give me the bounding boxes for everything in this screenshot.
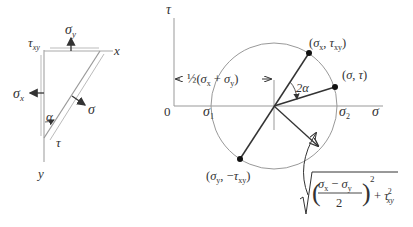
alpha-label: α — [46, 109, 54, 124]
sigma-y-label: σy — [65, 22, 76, 39]
tau-axis-label: τ — [166, 2, 172, 17]
exponent: 2 — [370, 174, 375, 184]
sigma-1-label: σ1 — [203, 104, 214, 121]
point-sigma-y-neg-tau-xy — [237, 156, 243, 162]
center-formula-label: ½(σx + σy) — [187, 72, 238, 88]
stress-element — [30, 38, 113, 162]
point-sigma-tau-label: (σ, τ) — [342, 68, 367, 82]
inclined-plane — [44, 51, 100, 138]
point-sigma-x-tau-xy — [306, 50, 312, 56]
tau-xy-squared: + τ2xy — [374, 187, 394, 205]
x-axis-label: x — [113, 43, 120, 58]
denominator: 2 — [336, 196, 342, 210]
y-axis-label: y — [36, 166, 44, 181]
sigma-normal-arrow — [72, 96, 85, 105]
tau-label: τ — [56, 135, 62, 150]
point-sigma-tau — [332, 84, 338, 90]
sigma-label: σ — [88, 102, 96, 117]
sigma-axis-label: σ — [372, 104, 380, 119]
tau-shear-line — [50, 54, 104, 140]
radius-arrow — [274, 106, 318, 146]
sigma-2-label: σ2 — [339, 104, 350, 121]
sigma-x-label: σx — [13, 86, 24, 103]
point-sigma-x-tau-xy-label: (σx, τxy) — [309, 36, 346, 52]
origin-label: 0 — [164, 104, 171, 119]
stress-diagram: σy τxy x y σx σ τ α τ σ 0 σ1 σ2 ½(σx + — [0, 0, 413, 227]
tau-xy-label: τxy — [28, 35, 40, 52]
point-sigma-y-neg-tau-xy-label: (σy, −τxy) — [206, 169, 250, 185]
radius-formula: ( σx − σy 2 ) 2 + τ2xy — [300, 172, 398, 214]
numerator: σx − σy — [318, 177, 352, 193]
two-alpha-label: 2α — [296, 81, 309, 95]
